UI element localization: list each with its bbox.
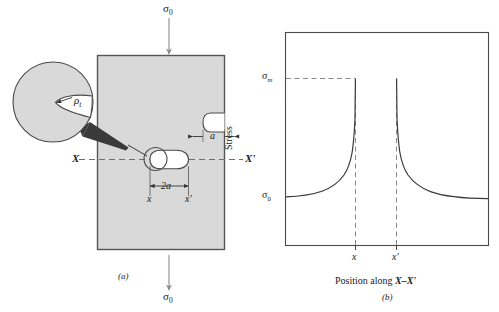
- applied-stress-top-label: σ0 σ0: [163, 3, 173, 17]
- x-axis-label-section: X–X': [395, 275, 416, 286]
- xtick-xprime-label: x': [392, 252, 399, 262]
- internal-crack: [150, 150, 189, 169]
- xtick-x-label: x: [352, 252, 356, 262]
- crack-tip-left-label: x: [147, 194, 151, 204]
- section-label-x-right: X': [245, 153, 255, 164]
- crack-width-label: 2a: [161, 181, 171, 191]
- x-axis-label-prefix: Position along: [335, 275, 395, 286]
- ytick-sigma-0-label: σ0: [262, 190, 271, 203]
- edge-notch-label: a: [210, 131, 215, 141]
- crack-tip-right-label: x': [185, 194, 192, 204]
- x-axis-label: Position along X–X': [335, 276, 416, 286]
- y-axis-label: Stress: [224, 126, 234, 150]
- applied-stress-bottom-label: σ0: [163, 291, 173, 305]
- panel-a-caption: (a): [118, 272, 129, 281]
- plot-frame: [286, 33, 489, 246]
- magnified-radius-label: ρt: [74, 95, 81, 109]
- figure-stress-concentration: σ0 σ0 σ0 X X' 2a x x' a ρt (a) σm σ0 Str…: [0, 0, 499, 312]
- section-label-x-left: X: [72, 153, 79, 164]
- panel-b-caption: (b): [382, 293, 393, 302]
- ytick-sigma-m-label: σm: [262, 71, 272, 84]
